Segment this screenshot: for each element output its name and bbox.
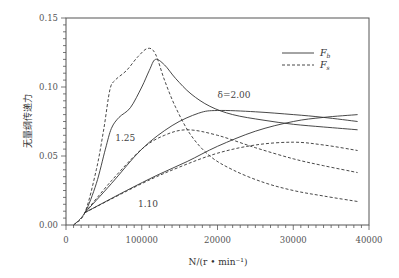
x-tick-label: 30000	[280, 235, 307, 245]
x-tick-label: 0	[63, 235, 68, 245]
x-tick-label: 100000	[126, 235, 158, 245]
legend-label: Fs	[319, 59, 330, 71]
annotations: δ=2.001.251.10	[115, 90, 251, 209]
series-line	[85, 142, 358, 212]
y-tick-label: 0.10	[39, 82, 58, 92]
series-line	[85, 110, 358, 212]
line-chart: 01000002000030000400000.000.050.100.15 δ…	[0, 0, 399, 278]
y-tick-label: 0.15	[39, 13, 58, 23]
tick-labels: 01000002000030000400000.000.050.100.15	[39, 13, 382, 245]
y-axis-title: 无量纲传递力	[22, 94, 33, 148]
curve-annotation: δ=2.00	[218, 90, 251, 100]
x-tick-label: 40000	[355, 235, 382, 245]
y-tick-label: 0.05	[39, 151, 58, 161]
legend: FbFs	[282, 47, 331, 71]
x-axis-title: N/(r • min⁻¹)	[189, 257, 248, 267]
legend-label: Fb	[319, 47, 331, 59]
curve-annotation: 1.25	[115, 133, 135, 143]
curve-annotation: 1.10	[138, 199, 158, 209]
x-tick-label: 20000	[204, 235, 231, 245]
y-tick-label: 0.00	[39, 220, 58, 230]
